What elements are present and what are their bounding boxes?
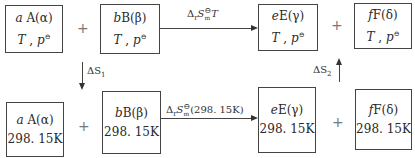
- condition-label: 298. 15K: [104, 123, 159, 142]
- box-top-B: bB(β) T , p⊖: [100, 4, 160, 54]
- arrow-head-up-icon: [336, 58, 342, 65]
- reaction-arrow-bottom: [161, 118, 252, 119]
- box-top-A: a A(α) T , p⊖: [5, 5, 63, 53]
- reaction-arrow-top: [160, 28, 252, 29]
- plus-sign: +: [77, 20, 89, 36]
- species-label: fF(δ): [369, 101, 398, 120]
- species-label: eE(γ): [272, 7, 304, 26]
- arrow-head-right-icon: [251, 25, 258, 31]
- box-bottom-B: bB(β) 298. 15K: [102, 91, 161, 154]
- reaction-entropy-label-bottom: ΔrS⊖m(298. 15K): [166, 103, 244, 118]
- arrow-head-down-icon: [79, 83, 85, 90]
- species-label: bB(β): [114, 9, 147, 28]
- condition-label: T , p⊖: [113, 28, 146, 50]
- box-top-E: eE(γ) T , p⊖: [258, 4, 318, 51]
- delta-s2-label: ΔS2: [313, 64, 332, 78]
- delta-s1-arrow: [82, 62, 83, 84]
- species-label: a A(α): [15, 9, 52, 28]
- delta-s1-label: ΔS1: [87, 65, 106, 79]
- species-label: bB(β): [115, 104, 148, 123]
- condition-label: T , p⊖: [17, 28, 50, 50]
- condition-label: T , p⊖: [366, 25, 399, 47]
- species-label: fF(δ): [368, 6, 397, 25]
- condition-label: 298. 15K: [8, 130, 63, 149]
- box-bottom-F: fF(δ) 298. 15K: [355, 89, 412, 150]
- reaction-entropy-label-top: ΔrS⊖mT: [187, 7, 218, 22]
- condition-label: T , p⊖: [271, 26, 304, 48]
- arrow-head-right-icon: [251, 115, 258, 121]
- species-label: eE(γ): [271, 101, 303, 120]
- box-top-F: fF(δ) T , p⊖: [354, 3, 412, 49]
- species-label: a A(α): [16, 111, 53, 130]
- plus-sign: +: [331, 17, 343, 33]
- plus-sign: +: [332, 114, 344, 130]
- condition-label: 298. 15K: [260, 120, 315, 139]
- delta-s2-arrow: [339, 64, 340, 82]
- plus-sign: +: [78, 118, 90, 134]
- box-bottom-A: a A(α) 298. 15K: [6, 102, 64, 157]
- box-bottom-E: eE(γ) 298. 15K: [258, 87, 316, 153]
- condition-label: 298. 15K: [356, 120, 411, 139]
